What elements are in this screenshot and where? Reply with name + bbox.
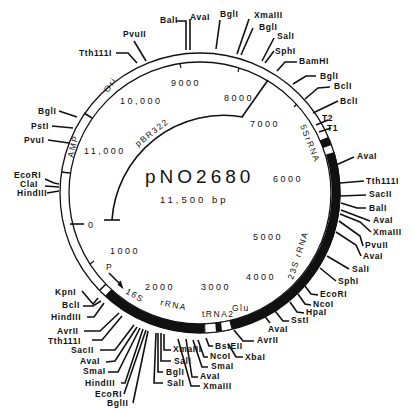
site-label: NcoI — [210, 351, 231, 361]
site-label: AvaI — [357, 151, 377, 161]
site-label: PvuI — [24, 135, 44, 145]
scale-0: 0 — [88, 220, 96, 230]
scale-3000: 3000 — [201, 282, 231, 292]
site-label: SmaI — [83, 366, 106, 376]
scale-4000: 4000 — [246, 272, 276, 282]
amp-label: AMP — [65, 134, 81, 159]
site-label: BclI — [334, 81, 352, 91]
site-label: BclI — [340, 96, 358, 106]
site-label: SalI — [352, 264, 370, 274]
site-label: XbaI — [245, 352, 265, 362]
site-label: SmaI — [211, 361, 234, 371]
site-label: HindIII — [17, 188, 47, 198]
site-label: EcoRI — [320, 289, 347, 299]
promoter-arrow — [109, 273, 122, 287]
site-label: PvuII — [365, 240, 388, 250]
site-label: Tth111I — [79, 48, 112, 58]
site-label: BglI — [220, 9, 238, 19]
5s-rrna-label: 5SrRNA — [298, 123, 322, 164]
site-label: SalI — [167, 378, 185, 388]
trna-glu-label: Glu — [232, 303, 250, 313]
site-label: HindIII — [85, 378, 115, 388]
site-label: AvaI — [363, 251, 383, 261]
site-label: SacII — [71, 345, 94, 355]
site-label: BglI — [166, 367, 184, 377]
site-label: XmaIII — [254, 10, 283, 20]
site-label: AvaI — [268, 324, 288, 334]
ori-amp-divider — [84, 113, 92, 118]
plasmid-inner-circle — [69, 62, 331, 324]
site-label: BamHI — [299, 56, 329, 66]
promoter-label: P — [106, 262, 113, 272]
site-label: AvaI — [190, 12, 210, 22]
scale-11000: 11,000 — [84, 146, 126, 156]
site-label: BglI — [320, 71, 338, 81]
scale-9000: 9000 — [171, 78, 201, 88]
site-label: BglII — [107, 398, 128, 408]
plasmid-map: pNO2680 11,500 bp pBR322 0 1000 2000 300… — [0, 0, 413, 414]
site-label: PstI — [31, 121, 49, 131]
bottom-left-divider — [100, 284, 106, 290]
site-label: AvrII — [257, 335, 279, 345]
site-label: SphI — [338, 276, 359, 286]
site-label: SalI — [277, 31, 295, 41]
scale-5000: 5000 — [253, 232, 283, 242]
16s-rrna-label: rRNA — [160, 297, 188, 312]
site-label: SstI — [291, 315, 309, 325]
site-label: Tth111I — [366, 176, 399, 186]
site-label: BglI — [38, 106, 56, 116]
scale-2000: 2000 — [145, 282, 175, 292]
trna-label: tRNA2 — [202, 309, 235, 319]
scale-10000: 10,000 — [120, 96, 163, 106]
site-label: KpnI — [55, 287, 76, 297]
site-label: XmaIII — [373, 227, 402, 237]
amp-end-divider — [61, 172, 70, 173]
site-label: PvuII — [123, 29, 146, 39]
site-label: XmaIII — [203, 381, 232, 391]
site-label: SacII — [369, 189, 392, 199]
site-label: BalI — [160, 15, 178, 25]
scale-1000: 1000 — [110, 246, 140, 256]
site-label: BclI — [62, 300, 80, 310]
site-label: AvrII — [57, 326, 79, 336]
site-label: HpaI — [306, 307, 327, 317]
scale-8000: 8000 — [224, 93, 254, 103]
site-label: AvaI — [80, 356, 100, 366]
ori-label: Ori — [101, 75, 118, 94]
t2-label: T2 — [322, 113, 333, 123]
scale-6000: 6000 — [273, 174, 303, 184]
site-label: AvaI — [200, 371, 220, 381]
site-label: BglI — [259, 22, 277, 32]
site-label: SphI — [275, 46, 296, 56]
plasmid-size: 11,500 bp — [160, 194, 229, 205]
trna-glu-bar — [215, 322, 222, 332]
scale-7000: 7000 — [250, 119, 280, 129]
plasmid-name: pNO2680 — [145, 166, 254, 187]
site-label: HindIII — [51, 312, 81, 322]
site-label: BalI — [369, 203, 387, 213]
site-label: AvaI — [373, 215, 393, 225]
t1-label: T1 — [327, 123, 338, 133]
